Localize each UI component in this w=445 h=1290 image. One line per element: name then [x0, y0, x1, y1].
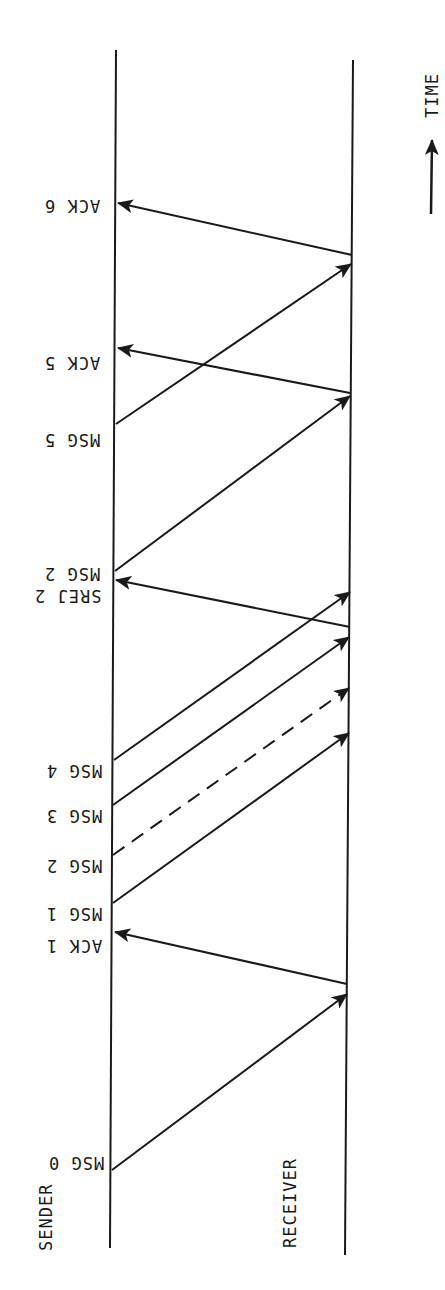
time-arrow-icon: [431, 140, 432, 214]
arrow-msg3: [113, 637, 349, 805]
arrow-msg2-lost: [113, 688, 349, 855]
arrow-ack1: [115, 932, 347, 984]
sender-lifeline: [110, 50, 116, 1248]
sequence-diagram: [0, 0, 445, 1290]
label-srej2: SREJ 2: [34, 587, 101, 605]
participant-receiver: RECEIVER: [281, 1158, 299, 1248]
participant-sender: SENDER: [37, 1184, 55, 1251]
arrow-ack6: [118, 203, 352, 255]
label-msg2: MSG 2: [46, 857, 102, 875]
arrow-msg4: [114, 592, 350, 760]
arrow-srej2: [116, 580, 350, 627]
time-axis-label: TIME: [423, 73, 441, 118]
receiver-lifeline: [345, 60, 353, 1255]
label-msg5: MSG 5: [44, 431, 100, 449]
arrow-msg2-retransmit: [115, 396, 350, 571]
label-msg4: MSG 4: [46, 762, 102, 780]
label-msg1: MSG 1: [46, 905, 102, 923]
label-msg0: MSG 0: [48, 1154, 104, 1172]
arrow-ack5: [118, 348, 350, 393]
label-ack1: ACK 1: [46, 937, 102, 955]
arrow-msg1: [113, 733, 349, 903]
arrow-msg5: [116, 264, 351, 424]
label-ack6: ACK 6: [44, 197, 100, 215]
arrow-msg0: [112, 994, 347, 1170]
label-msg3: MSG 3: [46, 807, 102, 825]
label-ack5: ACK 5: [44, 354, 100, 372]
label-msg2-retransmit: MSG 2: [44, 565, 100, 583]
